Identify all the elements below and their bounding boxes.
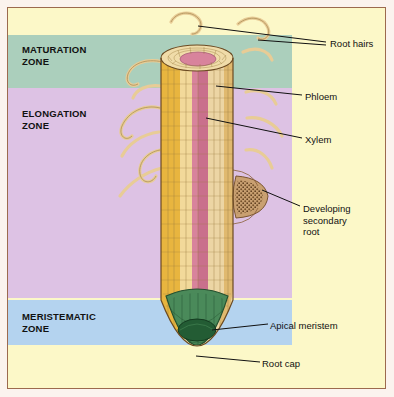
root-top-cut-surface [161,45,233,71]
callout-label-phloem: Phloem [305,91,337,103]
zone-label-maturation: MATURATION ZONE [22,44,86,67]
zone-label-elongation: ELONGATION ZONE [22,108,87,131]
callout-label-root-cap: Root cap [262,358,300,370]
callout-label-apical-meristem: Apical meristem [270,320,338,332]
callout-label-developing-secondary-root: Developing secondary root [303,203,351,238]
root-diagram-figure: MATURATION ZONE ELONGATION ZONE MERISTEM… [0,0,394,397]
callout-label-root-hairs: Root hairs [330,38,373,50]
callout-label-xylem: Xylem [305,134,331,146]
root-cap [166,289,228,395]
developing-secondary-root [233,170,268,224]
zone-label-meristematic: MERISTEMATIC ZONE [22,311,96,334]
